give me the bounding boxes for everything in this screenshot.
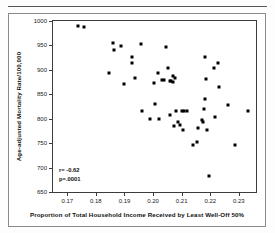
y-tick-mark — [49, 192, 53, 193]
scatter-point — [214, 115, 217, 118]
scatter-point — [172, 124, 175, 127]
scatter-point — [108, 71, 111, 74]
scatter-point — [152, 81, 155, 84]
y-axis-title: Age-adjusted Mortality Rate/100,000 — [14, 20, 24, 193]
scatter-point — [207, 174, 210, 177]
scatter-point — [170, 80, 173, 83]
scatter-point — [202, 121, 205, 124]
x-tick-label: 0.20 — [147, 198, 159, 204]
scatter-point — [148, 118, 151, 121]
x-tick-label: 0.17 — [61, 198, 73, 204]
scatter-point — [141, 109, 144, 112]
x-tick-mark — [239, 192, 240, 196]
scatter-point — [157, 72, 160, 75]
scatter-point — [178, 123, 181, 126]
scatter-point — [166, 66, 169, 69]
scatter-point — [218, 86, 221, 89]
scatter-point — [202, 108, 205, 111]
scatter-point — [120, 45, 123, 48]
y-tick-label: 800 — [37, 116, 47, 122]
x-axis-title: Proportion of Total Household Income Rec… — [8, 211, 266, 218]
scatter-point — [204, 55, 207, 58]
y-tick-label: 1000 — [34, 18, 47, 24]
scatter-point — [82, 25, 85, 28]
scatter-point — [134, 76, 137, 79]
y-tick-label: 750 — [37, 140, 47, 146]
scatter-point — [140, 42, 143, 45]
scatter-point — [165, 46, 168, 49]
top-divider-rule — [8, 6, 267, 7]
scatter-point — [112, 42, 115, 45]
scatter-point — [234, 144, 237, 147]
y-tick-label: 850 — [37, 91, 47, 97]
x-tick-label: 0.19 — [119, 198, 131, 204]
y-tick-label: 650 — [37, 189, 47, 195]
scatter-point — [168, 113, 171, 116]
scatter-point — [182, 110, 185, 113]
scatter-point — [181, 128, 184, 131]
scatter-point — [197, 126, 200, 129]
scatter-point — [174, 77, 177, 80]
y-tick-label: 700 — [37, 165, 47, 171]
y-axis-title-text: Age-adjusted Mortality Rate/100,000 — [16, 52, 23, 161]
scatter-point — [154, 102, 157, 105]
plot-area: 6507007508008509009501000 0.170.180.190.… — [52, 20, 257, 193]
x-tick-mark — [210, 192, 211, 196]
pvalue-label: p=.0001 — [59, 175, 80, 184]
scatter-point — [205, 77, 208, 80]
y-tick-label: 950 — [37, 42, 47, 48]
x-tick-mark — [96, 192, 97, 196]
scatter-point — [131, 61, 134, 64]
scatter-point — [203, 97, 206, 100]
y-tick-label: 900 — [37, 67, 47, 73]
scatter-point — [212, 67, 215, 70]
x-tick-mark — [124, 192, 125, 196]
x-tick-label: 0.22 — [204, 198, 216, 204]
scatter-point — [246, 110, 249, 113]
scatter-point — [174, 110, 177, 113]
scatter-point — [130, 55, 133, 58]
statistics-annotation: r= -0.62 p=.0001 — [59, 166, 80, 184]
scatter-point — [195, 141, 198, 144]
scatter-point — [162, 79, 165, 82]
scatter-point — [191, 143, 194, 146]
scatter-point — [158, 118, 161, 121]
x-tick-mark — [67, 192, 68, 196]
x-tick-label: 0.18 — [90, 198, 102, 204]
scatter-point — [216, 61, 219, 64]
scatter-points-layer — [53, 21, 256, 192]
scatter-point — [112, 48, 115, 51]
x-tick-mark — [153, 192, 154, 196]
scatter-point — [226, 104, 229, 107]
correlation-label: r= -0.62 — [59, 166, 80, 175]
scatter-point — [185, 109, 188, 112]
scatter-point — [77, 24, 80, 27]
x-tick-mark — [182, 192, 183, 196]
scatter-point — [206, 129, 209, 132]
x-tick-label: 0.23 — [233, 198, 245, 204]
scatter-point — [122, 83, 125, 86]
x-tick-label: 0.21 — [176, 198, 188, 204]
figure-container: Age-adjusted Mortality Rate/100,000 6507… — [0, 0, 275, 233]
